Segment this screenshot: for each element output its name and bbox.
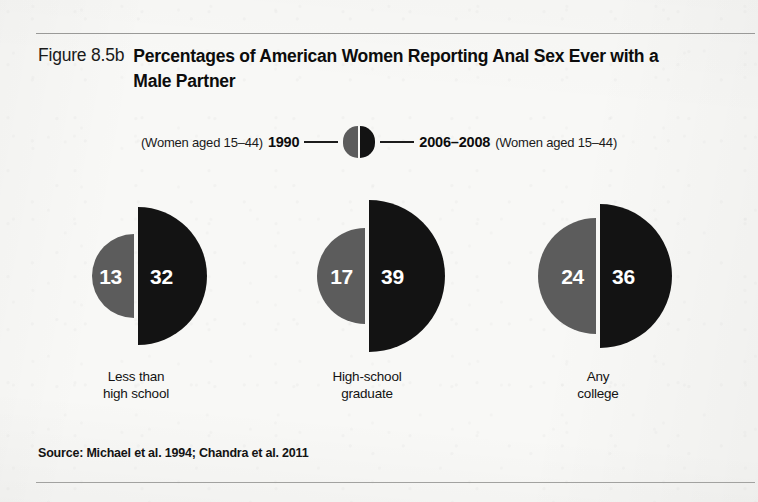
top-divider-rule <box>36 33 755 34</box>
legend-leader-right <box>380 141 414 143</box>
category-label: Anycollege <box>488 368 708 402</box>
category-label-line: graduate <box>257 385 477 402</box>
semicircle-chart: 1332Less thanhigh school1739High-schoolg… <box>0 186 758 386</box>
legend-left-note: (Women aged 15–44) <box>141 135 263 150</box>
legend-left-year: 1990 <box>268 134 299 150</box>
figure-header: Figure 8.5bPercentages of American Women… <box>38 44 728 94</box>
value-label-2006-2008: 39 <box>381 266 404 287</box>
value-label-2006-2008: 32 <box>150 266 173 287</box>
semicircle-2006-2008 <box>600 204 672 348</box>
bottom-divider-rule <box>36 482 755 483</box>
value-label-2006-2008: 36 <box>612 266 635 287</box>
value-label-1990: 24 <box>561 266 584 287</box>
figure-title: Percentages of American Women Reporting … <box>133 44 693 94</box>
figure-source: Source: Michael et al. 1994; Chandra et … <box>38 446 308 460</box>
split-circle-left-half <box>343 126 358 158</box>
legend-leader-left <box>304 141 338 143</box>
figure-page: Figure 8.5bPercentages of American Women… <box>0 0 758 502</box>
category-label-line: Any <box>488 368 708 385</box>
split-circle-right-half <box>360 126 375 158</box>
chart-legend: (Women aged 15–44) 1990 2006–2008 (Women… <box>0 126 758 158</box>
category-label-line: college <box>488 385 708 402</box>
value-label-1990: 17 <box>330 266 353 287</box>
category-label-line: High-school <box>257 368 477 385</box>
legend-entry-2006-2008: 2006–2008 (Women aged 15–44) <box>419 134 617 150</box>
split-circle-icon <box>343 126 375 158</box>
figure-number: Figure 8.5b <box>38 44 124 66</box>
category-label-line: high school <box>26 385 246 402</box>
legend-right-note: (Women aged 15–44) <box>495 135 617 150</box>
category-label: Less thanhigh school <box>26 368 246 402</box>
value-label-1990: 13 <box>99 266 122 287</box>
legend-entry-1990: (Women aged 15–44) 1990 <box>141 134 299 150</box>
category-label: High-schoolgraduate <box>257 368 477 402</box>
category-label-line: Less than <box>26 368 246 385</box>
legend-right-year: 2006–2008 <box>419 134 490 150</box>
